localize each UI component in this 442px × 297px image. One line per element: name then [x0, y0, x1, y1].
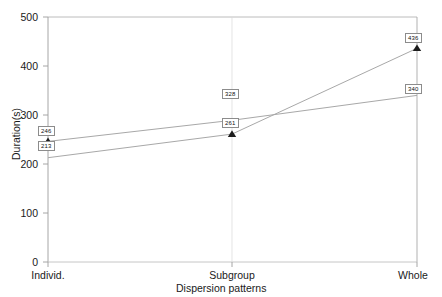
- ytick-label-400: 400: [14, 61, 38, 72]
- data-label-436: 436: [405, 33, 422, 43]
- ytick-label-200: 200: [14, 159, 38, 170]
- ytick-label-500: 500: [14, 12, 38, 23]
- data-label-213: 213: [38, 141, 55, 151]
- marker-triangle-261: [228, 130, 236, 137]
- xtick-label-subgroup: Subgroup: [202, 270, 262, 281]
- ytick-label-100: 100: [14, 208, 38, 219]
- xtick-label-individ: Individ.: [18, 270, 78, 281]
- ytick-label-0: 0: [14, 257, 38, 268]
- line-chart: 500 400 300 200 100 0 Individ. Subgroup …: [0, 0, 442, 297]
- data-label-261: 261: [222, 118, 239, 128]
- x-axis-title: Dispersion patterns: [176, 283, 266, 294]
- y-axis-title: Duration(s): [11, 108, 22, 160]
- data-label-246: 246: [38, 126, 55, 136]
- data-label-328: 328: [222, 89, 239, 99]
- plot-canvas: [0, 0, 442, 297]
- xtick-label-whole: Whole: [387, 270, 439, 281]
- marker-triangle-436: [413, 44, 421, 51]
- data-label-340: 340: [405, 84, 422, 94]
